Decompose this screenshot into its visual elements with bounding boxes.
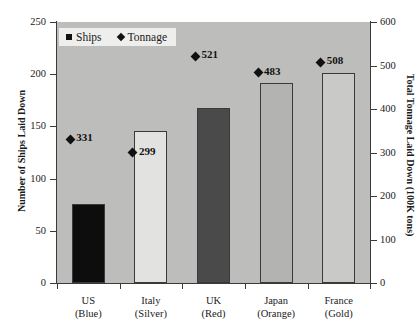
y-axis-right-label-200: 200 bbox=[380, 191, 396, 202]
x-axis-line bbox=[56, 283, 371, 284]
tonnage-value-label-uk: 521 bbox=[202, 49, 219, 60]
diamond-marker-icon bbox=[116, 33, 124, 41]
y-axis-left-tick-50 bbox=[50, 231, 56, 232]
y-axis-left-title: Number of Ships Laid Down bbox=[17, 76, 27, 226]
tonnage-value-label-france: 508 bbox=[327, 55, 344, 66]
chart-container: 0 50 100 150 200 250 0 100 200 300 400 5… bbox=[0, 0, 417, 330]
y-axis-left-tick-100 bbox=[50, 179, 56, 180]
y-axis-right-tick-0 bbox=[371, 283, 377, 284]
legend-label-tonnage: Tonnage bbox=[128, 31, 167, 43]
tonnage-value-label-us: 331 bbox=[76, 132, 93, 143]
y-axis-left-tick-150 bbox=[50, 126, 56, 127]
y-axis-right-tick-100 bbox=[371, 240, 377, 241]
x-axis-tick-5 bbox=[370, 284, 371, 289]
x-axis-tick-3 bbox=[245, 284, 246, 289]
y-axis-right-tick-200 bbox=[371, 196, 377, 197]
bar-us bbox=[72, 204, 105, 283]
bar-france bbox=[322, 73, 355, 283]
x-axis-tick-1 bbox=[120, 284, 121, 289]
y-axis-left-label-50: 50 bbox=[16, 226, 46, 237]
bar-japan bbox=[260, 83, 293, 283]
y-axis-right-label-600: 600 bbox=[380, 17, 396, 28]
y-axis-left-label-250: 250 bbox=[16, 17, 46, 28]
legend-label-ships: Ships bbox=[76, 31, 102, 43]
legend-item-ships: Ships bbox=[66, 31, 102, 43]
y-axis-right-title: Total Tonnage Laid Down (100K tons) bbox=[405, 70, 415, 240]
legend-item-tonnage: Tonnage bbox=[118, 31, 167, 43]
y-axis-right-label-300: 300 bbox=[380, 148, 396, 159]
x-axis-tick-4 bbox=[308, 284, 309, 289]
category-sublabel: (Gold) bbox=[299, 307, 379, 320]
y-axis-right-tick-500 bbox=[371, 66, 377, 67]
y-axis-right-label-0: 0 bbox=[380, 278, 385, 289]
x-axis-tick-0 bbox=[57, 284, 58, 289]
y-axis-left-tick-200 bbox=[50, 74, 56, 75]
y-axis-right-tick-300 bbox=[371, 153, 377, 154]
y-axis-right-label-100: 100 bbox=[380, 235, 396, 246]
y-axis-right-label-400: 400 bbox=[380, 104, 396, 115]
category-name: France bbox=[299, 294, 379, 307]
y-axis-left-label-0: 0 bbox=[16, 278, 46, 289]
tonnage-value-label-japan: 483 bbox=[264, 66, 281, 77]
category-label-france: France(Gold) bbox=[299, 294, 379, 320]
x-axis-tick-2 bbox=[182, 284, 183, 289]
y-axis-right-tick-400 bbox=[371, 109, 377, 110]
chart-legend: Ships Tonnage bbox=[59, 28, 176, 46]
y-axis-left-tick-250 bbox=[50, 22, 56, 23]
bar-uk bbox=[197, 108, 230, 283]
y-axis-right-label-500: 500 bbox=[380, 61, 396, 72]
square-marker-icon bbox=[66, 34, 72, 40]
tonnage-value-label-italy: 299 bbox=[139, 146, 156, 157]
y-axis-right-tick-600 bbox=[371, 22, 377, 23]
y-axis-left-tick-0 bbox=[50, 283, 56, 284]
y-axis-left-line bbox=[56, 21, 57, 284]
